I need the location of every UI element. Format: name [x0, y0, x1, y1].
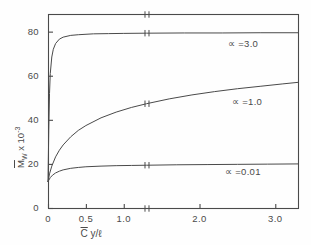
- curve-series-0: [48, 33, 298, 182]
- y-axis-subscript: W: [21, 154, 28, 161]
- y-axis-title: MW x 10-3: [14, 127, 28, 168]
- figure-container: 0 20 40 60 80 0 0.5 1.0 2.0 3.0 MW x 10-…: [0, 0, 311, 245]
- x-tick-label-3-0: 3.0: [255, 213, 295, 224]
- curve-label-alpha-0-01: ∝ =0.01: [225, 166, 261, 177]
- y-axis-symbol: M: [15, 160, 26, 168]
- y-tick-label-80: 80: [0, 26, 39, 37]
- axis-ticks: [49, 32, 276, 208]
- y-tick-label-0: 0: [0, 202, 39, 213]
- x-tick-label-0: 0: [28, 213, 68, 224]
- plot-area: [0, 0, 311, 245]
- x-axis-title: C y/ℓ: [81, 228, 102, 239]
- x-tick-label-1-0: 1.0: [104, 213, 144, 224]
- x-axis-rest: y/ℓ: [88, 228, 102, 239]
- y-axis-multiplier: x 10: [15, 133, 26, 154]
- curve-label-alpha-1: ∝ =1.0: [232, 96, 262, 107]
- y-axis-exponent: -3: [14, 127, 21, 133]
- axes-frame: [49, 15, 299, 209]
- axis-break-marks: [145, 11, 149, 211]
- x-axis-symbol: C: [81, 228, 88, 239]
- curve-label-alpha-3: ∝ =3.0: [228, 38, 258, 49]
- x-tick-label-2-0: 2.0: [180, 213, 220, 224]
- y-tick-label-40: 40: [0, 114, 39, 125]
- y-tick-label-60: 60: [0, 70, 39, 81]
- data-curves: [48, 33, 298, 182]
- x-tick-label-0-5: 0.5: [66, 213, 106, 224]
